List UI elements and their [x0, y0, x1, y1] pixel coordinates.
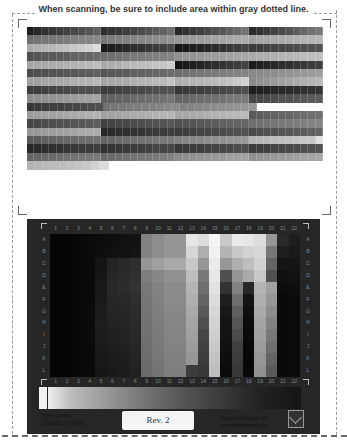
- gray-patch: [264, 77, 271, 85]
- gray-patch: [242, 144, 249, 152]
- color-patch: [141, 317, 152, 329]
- color-patch: [61, 365, 72, 377]
- row-label: J: [39, 341, 49, 353]
- gray-patch: [308, 136, 315, 144]
- color-patch: [73, 270, 84, 282]
- gray-patch: [73, 103, 81, 111]
- row-label: F: [39, 294, 49, 306]
- gray-patch: [94, 52, 101, 60]
- gray-patch: [308, 111, 315, 119]
- gray-patch: [220, 86, 227, 94]
- gray-patch: [190, 153, 197, 161]
- gray-patch: [205, 111, 212, 119]
- gray-patch: [101, 128, 108, 136]
- gray-patch: [79, 153, 86, 161]
- gray-patch: [294, 27, 301, 35]
- gray-patch: [271, 153, 278, 161]
- gray-patch: [212, 35, 219, 43]
- gray-patch: [175, 144, 182, 152]
- gray-patch: [212, 94, 219, 102]
- gray-patch: [108, 27, 115, 35]
- gray-patch: [279, 136, 286, 144]
- gray-patch: [108, 52, 115, 60]
- gray-patch: [301, 27, 308, 35]
- gray-patch: [183, 153, 190, 161]
- gray-patch: [34, 111, 41, 119]
- gray-patch: [234, 153, 241, 161]
- gray-patch: [34, 52, 41, 60]
- gray-patch: [308, 61, 315, 69]
- column-label: 4: [84, 225, 95, 233]
- column-label: 20: [266, 225, 277, 233]
- gray-patch: [64, 86, 71, 94]
- gray-patch: [249, 94, 256, 102]
- gray-patch: [316, 161, 323, 169]
- color-patch: [50, 306, 61, 318]
- color-patch: [152, 282, 163, 294]
- gray-patch: [301, 52, 308, 60]
- gray-patch: [64, 153, 71, 161]
- gray-patch: [308, 144, 315, 152]
- gray-patch: [301, 111, 308, 119]
- gray-patch: [131, 144, 138, 152]
- gray-patch: [294, 86, 301, 94]
- gray-patch: [301, 69, 308, 77]
- color-patch: [84, 246, 95, 258]
- color-patch: [220, 306, 231, 318]
- gray-patch: [42, 86, 49, 94]
- gray-patch: [131, 61, 138, 69]
- gray-patch: [220, 153, 227, 161]
- column-label: 2: [61, 378, 72, 386]
- gray-patch: [249, 27, 256, 35]
- column-label: 12: [175, 378, 186, 386]
- color-patch: [175, 365, 186, 377]
- gray-patch: [279, 111, 286, 119]
- row-labels-right: ABCDEFGHIJKL: [303, 234, 313, 377]
- color-patch: [254, 246, 265, 258]
- row-label: I: [303, 329, 313, 341]
- gray-patch: [175, 77, 182, 85]
- gray-patch: [123, 128, 130, 136]
- row-label: E: [39, 282, 49, 294]
- color-patch: [152, 353, 163, 365]
- gray-patch: [64, 128, 71, 136]
- color-patch: [152, 329, 163, 341]
- gray-patch: [138, 86, 145, 94]
- crop-mark-bottom-right: [322, 206, 331, 215]
- gray-patch: [212, 111, 219, 119]
- gray-patch: [316, 77, 323, 85]
- gray-patch: [286, 128, 293, 136]
- gray-patch: [249, 35, 256, 43]
- gray-patch: [123, 77, 130, 85]
- column-label: 13: [186, 378, 197, 386]
- patch-column: [164, 234, 175, 377]
- color-patch: [175, 306, 186, 318]
- gray-patch: [175, 94, 182, 102]
- color-patch: [73, 353, 84, 365]
- gray-patch: [86, 27, 93, 35]
- color-patch: [266, 270, 277, 282]
- color-patch: [198, 365, 209, 377]
- gray-patch: [175, 44, 182, 52]
- color-patch: [84, 341, 95, 353]
- gray-patch: [263, 103, 270, 111]
- gray-patch: [49, 61, 56, 69]
- gray-patch: [294, 128, 301, 136]
- gray-patch: [119, 103, 127, 111]
- color-patch: [209, 306, 220, 318]
- patch-column: [50, 234, 61, 377]
- gray-patch: [197, 153, 204, 161]
- column-label: 4: [84, 378, 95, 386]
- color-patch: [152, 294, 163, 306]
- color-patch: [175, 329, 186, 341]
- gray-patch: [249, 111, 256, 119]
- gray-patch: [94, 77, 101, 85]
- target-corner-mark: [41, 379, 47, 385]
- gray-patch: [295, 161, 302, 169]
- gray-patch: [257, 136, 264, 144]
- gray-patch: [34, 128, 41, 136]
- gray-patch: [27, 61, 34, 69]
- gray-patch: [71, 136, 78, 144]
- gray-patch: [242, 27, 249, 35]
- color-patch: [243, 329, 254, 341]
